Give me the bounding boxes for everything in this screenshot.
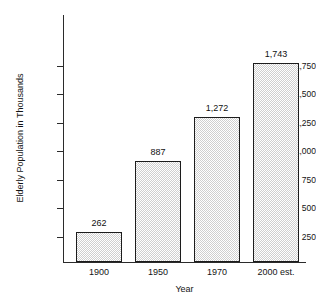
y-tick-mark bbox=[57, 66, 63, 67]
bar-chart-figure: Elderly Population in Thousands 250 500 … bbox=[0, 0, 316, 305]
y-axis-title: Elderly Population in Thousands bbox=[14, 30, 26, 245]
x-tick-label: 2000 est. bbox=[246, 268, 306, 277]
x-axis-title: Year bbox=[63, 285, 306, 294]
bar-1970[interactable] bbox=[194, 117, 240, 262]
y-tick-mark bbox=[57, 123, 63, 124]
x-tick-label: 1900 bbox=[76, 268, 122, 277]
bar-value-label: 887 bbox=[135, 148, 181, 157]
x-tick-label: 1950 bbox=[135, 268, 181, 277]
y-axis-title-text: Elderly Population in Thousands bbox=[16, 73, 25, 202]
bar-1900[interactable] bbox=[76, 232, 122, 262]
bar-value-label: 262 bbox=[76, 219, 122, 228]
x-tick-label: 1970 bbox=[194, 268, 240, 277]
y-tick-mark bbox=[57, 151, 63, 152]
y-tick-mark bbox=[57, 208, 63, 209]
bar-value-label: 1,272 bbox=[194, 104, 240, 113]
bar-1950[interactable] bbox=[135, 161, 181, 262]
y-tick-mark bbox=[57, 94, 63, 95]
y-axis-line bbox=[63, 15, 64, 263]
bar-value-label: 1,743 bbox=[249, 50, 303, 59]
bar-2000-est[interactable] bbox=[253, 63, 299, 262]
y-tick-mark bbox=[57, 180, 63, 181]
x-axis-line bbox=[63, 262, 306, 263]
y-tick-mark bbox=[57, 237, 63, 238]
